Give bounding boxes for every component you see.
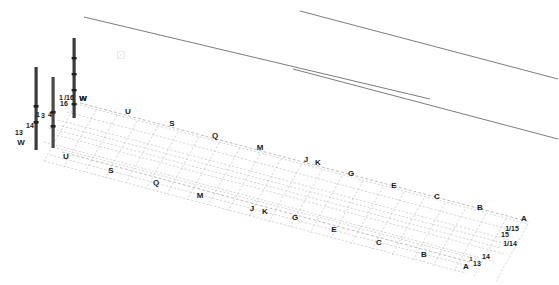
- gridline-label-bottom-c: C: [376, 239, 382, 247]
- corner-grid-label-15: 15: [501, 231, 509, 238]
- corner-grid-label-114: 1/14: [503, 240, 517, 247]
- column-grid-label-4: 4: [48, 111, 52, 118]
- gridline-label-bottom-q: Q: [153, 179, 159, 187]
- gridline-label-top-s: S: [169, 120, 174, 128]
- gridline-label-bottom-s: S: [108, 167, 113, 175]
- gridline-label-bottom-g: G: [292, 214, 298, 222]
- faint-construction-mark: [118, 52, 125, 59]
- column-grid-label-1: 1: [36, 111, 40, 118]
- isometric-grid-lines: [44, 104, 528, 281]
- gridline-label-top-e: E: [391, 182, 396, 190]
- column-grid-label-w: W: [79, 95, 87, 103]
- gridline-label-top-b: B: [477, 204, 483, 212]
- corner-grid-label-1: 1: [469, 256, 472, 262]
- gridline-label-bottom-u: U: [63, 153, 69, 161]
- primary-gridline-axes: [62, 103, 530, 262]
- gridline-label-top-g: G: [348, 170, 354, 178]
- gridline-label-bottom-j: J: [250, 205, 254, 213]
- cad-drawing-viewport: WUSQMJKGECBAUSQMJKGECBA13W14134116/16W1/…: [0, 0, 559, 285]
- column-grid-label-w: W: [17, 139, 25, 147]
- column-grid-label-16: /16: [64, 94, 74, 101]
- gridline-label-top-c: C: [434, 193, 440, 201]
- column-grid-label-13: 13: [15, 129, 23, 136]
- column-grid-label-14: 14: [26, 122, 34, 129]
- gridline-label-top-a: A: [521, 215, 527, 223]
- gridline-label-top-m: M: [257, 144, 264, 152]
- column-grid-label-16: 16: [60, 100, 68, 107]
- corner-grid-label-14: 14: [482, 253, 490, 260]
- gridline-label-top-j: J: [304, 156, 308, 164]
- corner-grid-label-13: 13: [473, 260, 481, 267]
- cad-vector-canvas: [0, 0, 559, 285]
- gridline-label-bottom-m: M: [197, 192, 204, 200]
- gridline-label-bottom-a: A: [463, 263, 469, 271]
- column-grid-label-3: 3: [41, 112, 45, 119]
- column-connection-nodes: [34, 57, 77, 128]
- gridline-label-bottom-e: E: [331, 226, 336, 234]
- reference-section-lines: [84, 11, 558, 139]
- gridline-label-bottom-b: B: [421, 251, 427, 259]
- gridline-label-top-u: U: [125, 108, 131, 116]
- gridline-label-top-k: K: [315, 159, 321, 167]
- gridline-label-bottom-k: K: [262, 208, 268, 216]
- gridline-label-top-q: Q: [212, 132, 218, 140]
